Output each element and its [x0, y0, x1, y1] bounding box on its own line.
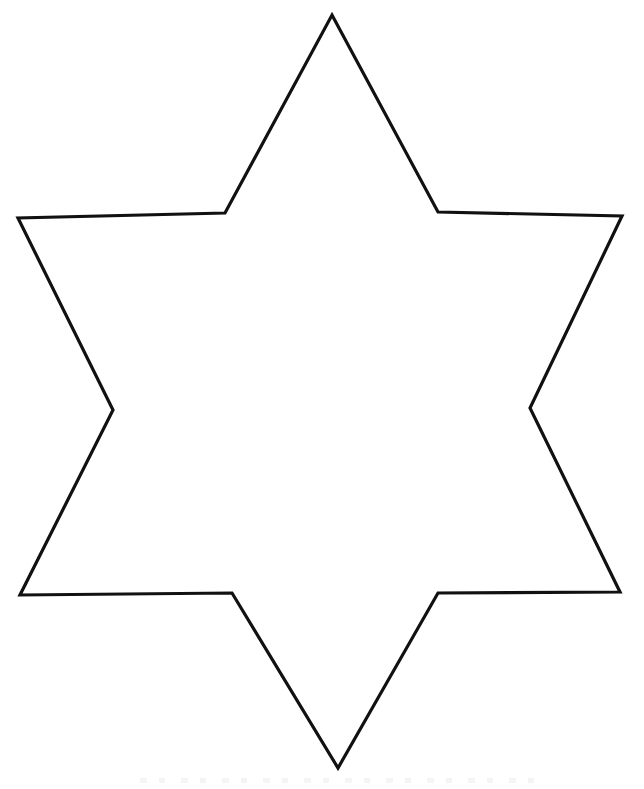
star-artwork: [0, 0, 644, 789]
six-pointed-star-outline: [18, 15, 622, 768]
page-canvas: [0, 0, 644, 789]
